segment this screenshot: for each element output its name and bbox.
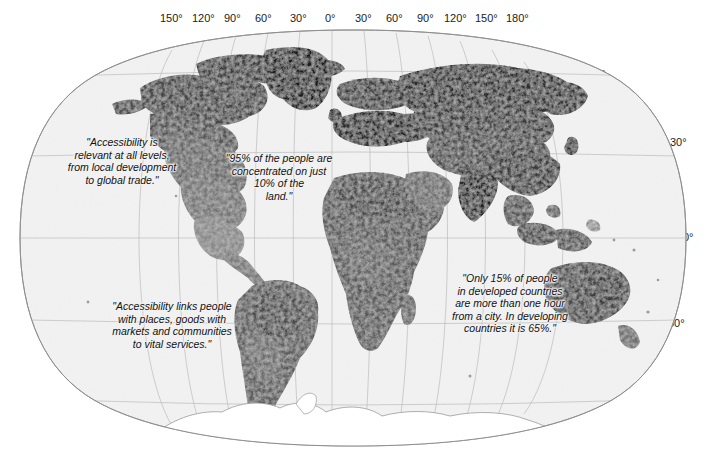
longitude-tick-label: 120°	[192, 12, 215, 24]
longitude-tick-label: 60°	[255, 12, 272, 24]
map-figure: 150° 120° 90° 60° 30° 0° 30° 60° 90° 120…	[0, 0, 706, 460]
longitude-tick-label: 150°	[160, 12, 183, 24]
annotation-quote-hour-from-city: "Only 15% of people in developed countri…	[424, 272, 596, 335]
annotation-quote-accessibility-links: "Accessibility links people with places,…	[88, 300, 256, 350]
annotation-quote-accessibility-levels: "Accessibility is relevant at all levels…	[46, 136, 198, 186]
longitude-tick-label: 30°	[355, 12, 372, 24]
longitude-tick-label: 180°	[506, 12, 529, 24]
longitude-tick-label: 0°	[325, 12, 336, 24]
world-map-canvas	[0, 28, 706, 448]
world-map-svg	[0, 28, 706, 448]
longitude-axis-labels: 150° 120° 90° 60° 30° 0° 30° 60° 90° 120…	[0, 12, 706, 28]
longitude-tick-label: 30°	[290, 12, 307, 24]
longitude-tick-label: 120°	[444, 12, 467, 24]
longitude-tick-label: 60°	[386, 12, 403, 24]
longitude-tick-label: 90°	[224, 12, 241, 24]
longitude-tick-label: 150°	[475, 12, 498, 24]
annotation-quote-population-concentration: "95% of the people are concentrated on j…	[206, 152, 352, 202]
map-contents	[0, 28, 706, 448]
longitude-tick-label: 90°	[417, 12, 434, 24]
